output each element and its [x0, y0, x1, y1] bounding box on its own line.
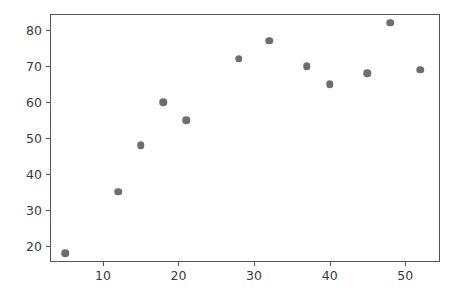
y-tick-label: 40 [0, 166, 42, 181]
scatter-point [386, 19, 394, 27]
scatter-point [61, 249, 69, 257]
y-axis-tick-labels: 20304050607080 [0, 0, 42, 294]
x-tick-mark [178, 262, 179, 266]
y-tick-label: 20 [0, 238, 42, 253]
x-tick-mark [405, 262, 406, 266]
x-tick-label: 30 [246, 268, 262, 283]
plot-data-area [50, 14, 440, 262]
y-tick-label: 30 [0, 202, 42, 217]
scatter-point [235, 55, 243, 63]
x-tick-label: 20 [171, 268, 187, 283]
scatter-point [326, 80, 334, 88]
x-tick-label: 50 [397, 268, 413, 283]
scatter-point [364, 70, 372, 78]
scatter-point [303, 62, 311, 70]
x-tick-mark [103, 262, 104, 266]
y-tick-label: 50 [0, 131, 42, 146]
x-tick-label: 40 [322, 268, 338, 283]
x-tick-mark [330, 262, 331, 266]
scatter-point [114, 188, 122, 196]
x-tick-label: 10 [95, 268, 111, 283]
scatter-point [417, 66, 425, 74]
y-tick-label: 60 [0, 95, 42, 110]
scatter-plot-figure: 20304050607080 1020304050 [0, 0, 463, 294]
scatter-point [137, 141, 145, 149]
y-tick-label: 80 [0, 23, 42, 38]
scatter-point [182, 116, 190, 124]
scatter-point [265, 37, 273, 45]
y-tick-label: 70 [0, 59, 42, 74]
x-tick-mark [254, 262, 255, 266]
scatter-point [160, 98, 168, 106]
